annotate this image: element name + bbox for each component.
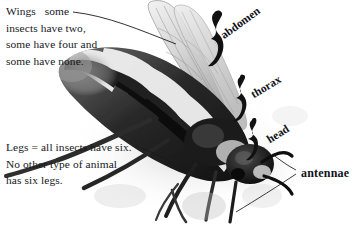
abdomen-brace xyxy=(208,11,223,67)
antennae-leader-lines xyxy=(236,154,296,212)
figure-canvas: Wings some insects have two, some have f… xyxy=(0,0,356,227)
head-brace xyxy=(246,118,258,160)
note-legs: Legs = all insects have six. No other ty… xyxy=(6,139,132,189)
note-wings: Wings some insects have two, some have f… xyxy=(6,3,97,69)
thorax-brace xyxy=(233,75,246,122)
legs-leader-line xyxy=(142,148,192,172)
label-antennae: antennae xyxy=(301,166,349,181)
